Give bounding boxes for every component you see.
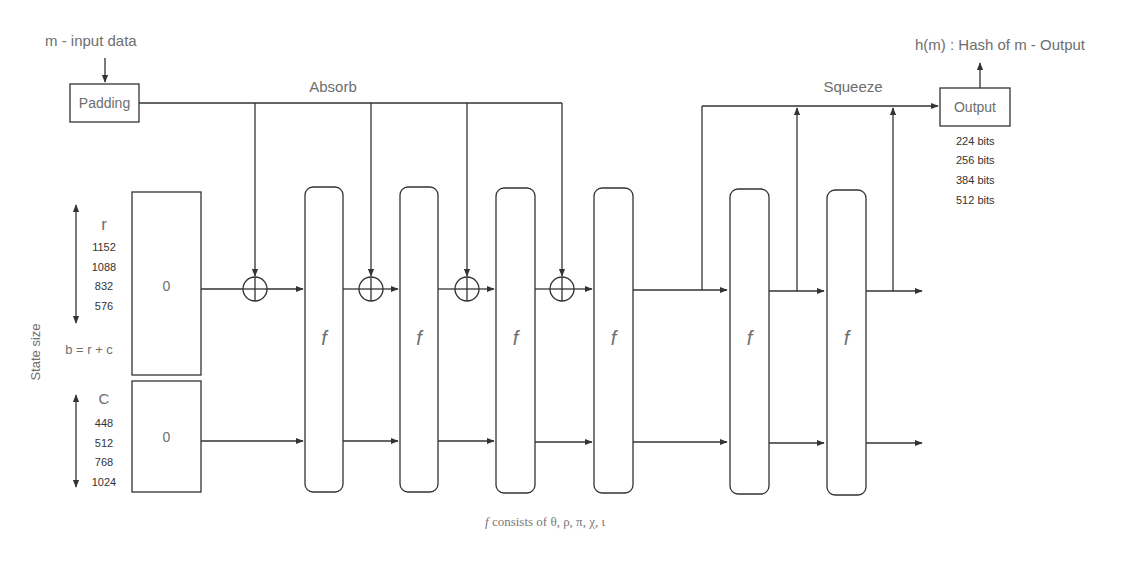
footnote: f consists of θ, ρ, π, χ, ι [485,514,605,529]
output-size: 224 bits [956,135,995,147]
xor-icon [243,277,267,301]
xor-icon [550,277,574,301]
absorb-label: Absorb [309,78,357,95]
capacity-value: 512 [95,437,113,449]
rate-value: 1088 [92,261,116,273]
xor-icon [455,277,479,301]
f-block-squeeze-1: f [730,189,769,494]
rate-value: 1152 [92,241,116,253]
state-size-label: State size [28,323,43,380]
capacity-initial-value: 0 [163,429,171,445]
squeeze-label: Squeeze [823,78,882,95]
padding-label: Padding [79,95,130,111]
sponge-diagram: m - input data Padding Absorb State size… [0,0,1121,563]
rate-value: 576 [95,300,113,312]
input-label: m - input data [45,32,137,49]
capacity-symbol: C [99,390,110,407]
f-block-absorb-4: f [594,188,633,493]
output-size: 512 bits [956,194,995,206]
capacity-value: 1024 [92,476,116,488]
rate-initial-value: 0 [163,278,171,294]
output-box-label: Output [954,99,996,115]
capacity-value: 768 [95,456,113,468]
state-formula: b = r + c [65,342,113,357]
hash-output-label: h(m) : Hash of m - Output [915,36,1086,53]
output-size: 256 bits [956,154,995,166]
output-size: 384 bits [956,174,995,186]
f-block-squeeze-2: f [827,190,866,495]
f-block-absorb-3: f [496,188,535,493]
rate-value: 832 [95,280,113,292]
f-block-absorb-2: f [400,187,438,492]
capacity-value: 448 [95,417,113,429]
xor-icon [359,277,383,301]
rate-symbol: r [101,215,107,234]
footnote-text: consists of θ, ρ, π, χ, ι [489,514,606,529]
f-block-absorb-1: f [305,187,343,492]
